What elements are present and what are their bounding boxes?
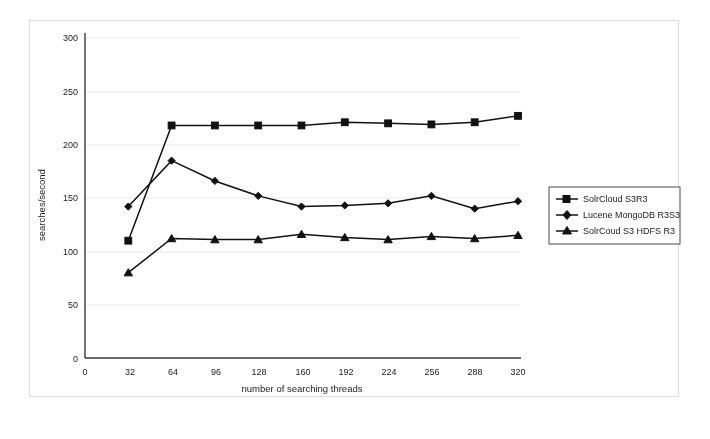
series-solrcloud-s3r3 [125,112,521,244]
x-tick-0: 0 [82,367,87,377]
data-point-square-icon [212,122,219,129]
data-point-diamond-icon [385,200,392,207]
chart-svg: 300 250 200 150 100 50 0 0 32 64 96 128 … [0,0,710,439]
data-point-diamond-icon [298,203,305,210]
y-tick-300: 300 [63,33,78,43]
y-tick-200: 200 [63,140,78,150]
data-point-square-icon [515,112,522,119]
x-tick-160: 160 [295,367,310,377]
data-point-diamond-icon [471,205,478,212]
series-line [128,161,518,209]
y-tick-250: 250 [63,87,78,97]
y-tick-0: 0 [73,354,78,364]
data-point-square-icon [298,122,305,129]
data-point-square-icon [341,119,348,126]
y-tick-50: 50 [68,300,78,310]
data-point-diamond-icon [514,198,521,205]
x-tick-224: 224 [381,367,396,377]
x-tick-192: 192 [338,367,353,377]
x-tick-32: 32 [125,367,135,377]
x-tick-288: 288 [467,367,482,377]
legend-item-solrcloud-s3r3[interactable]: SolrCloud S3R3 [556,194,648,204]
x-tick-64: 64 [168,367,178,377]
data-point-diamond-icon [211,177,218,184]
data-point-square-icon [125,237,132,244]
x-axis-title: number of searching threads [242,383,363,394]
legend-label-0: SolrCloud S3R3 [583,194,648,204]
x-tick-128: 128 [251,367,266,377]
y-tick-150: 150 [63,193,78,203]
x-tick-320: 320 [510,367,525,377]
data-point-square-icon [168,122,175,129]
gridlines [85,38,520,305]
y-axis-tick-labels: 300 250 200 150 100 50 0 [63,33,78,364]
legend: SolrCloud S3R3 Lucene MongoDB R3S3 SolrC… [549,187,680,244]
legend-label-2: SolrCoud S3 HDFS R3 [583,226,675,236]
series-lucene-mongodb-r3s3 [125,157,522,212]
series-line [128,234,518,272]
x-tick-256: 256 [424,367,439,377]
x-tick-96: 96 [211,367,221,377]
data-point-square-icon [255,122,262,129]
legend-marker-square-icon [563,196,570,203]
x-axis-tick-labels: 0 32 64 96 128 160 192 224 256 288 320 [82,367,525,377]
legend-label-1: Lucene MongoDB R3S3 [583,210,680,220]
y-axis-title: searches/second [36,169,47,241]
axes [85,33,521,358]
data-point-square-icon [385,120,392,127]
data-point-square-icon [471,119,478,126]
series-solrcoud-s3-hdfs-r3 [124,230,522,276]
data-point-square-icon [428,121,435,128]
data-point-diamond-icon [341,202,348,209]
line-chart: 300 250 200 150 100 50 0 0 32 64 96 128 … [0,0,710,439]
series-line [128,116,518,241]
y-tick-100: 100 [63,247,78,257]
series-layer [124,112,522,275]
